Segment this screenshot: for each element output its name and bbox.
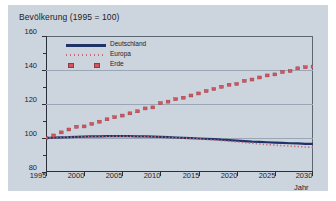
data-marker-erde [281, 71, 285, 74]
chart-figure: Bevölkerung (1995 = 100) [0, 0, 336, 201]
data-marker-erde [120, 114, 124, 117]
data-marker-erde [242, 79, 246, 82]
xlabel-2000: 2000 [59, 171, 93, 180]
legend-key-square-marker-icon [68, 63, 74, 68]
chart-title: Bevölkerung (1995 = 100) [19, 12, 119, 22]
data-marker-erde [105, 118, 109, 121]
legend-key-solid-line-icon [66, 44, 106, 47]
data-marker-erde [288, 70, 292, 73]
chart-panel: Bevölkerung (1995 = 100) [8, 5, 328, 191]
data-marker-erde [189, 94, 193, 97]
data-marker-erde [90, 122, 94, 125]
xlabel-1995: 1995 [21, 171, 55, 180]
data-marker-erde [204, 90, 208, 93]
data-marker-erde [227, 83, 231, 86]
ylabel-120: 120 [5, 95, 37, 104]
data-marker-erde [296, 67, 300, 70]
chart-legend: Deutschland Europa Erde [64, 40, 184, 70]
data-marker-erde [235, 82, 239, 85]
data-marker-erde [136, 110, 140, 113]
legend-key-square-marker-icon-2 [94, 63, 100, 68]
xlabel-2025: 2025 [250, 171, 284, 180]
data-marker-erde [82, 125, 86, 128]
data-marker-erde [151, 106, 155, 109]
data-marker-erde [166, 100, 170, 103]
data-marker-erde [128, 112, 132, 115]
x-axis-title: Jahr [294, 183, 309, 192]
data-marker-erde [311, 65, 313, 68]
xlabel-2005: 2005 [97, 171, 131, 180]
data-marker-erde [220, 85, 224, 88]
xlabel-2030: 2030 [287, 171, 321, 180]
data-marker-erde [59, 131, 63, 134]
ylabel-140: 140 [5, 61, 37, 70]
data-marker-erde [75, 125, 79, 128]
data-marker-erde [113, 116, 117, 119]
data-marker-erde [197, 92, 201, 95]
data-marker-erde [258, 76, 262, 79]
data-marker-erde [265, 74, 269, 77]
xlabel-2020: 2020 [212, 171, 246, 180]
legend-label-europa: Europa [110, 50, 131, 57]
legend-item-erde: Erde [64, 60, 184, 70]
data-marker-erde [143, 107, 147, 110]
data-marker-erde [67, 128, 71, 131]
xlabel-2010: 2010 [135, 171, 169, 180]
plot-area: Deutschland Europa Erde [46, 36, 313, 172]
data-marker-erde [250, 78, 254, 81]
data-marker-erde [159, 102, 163, 105]
legend-key-dotted-line-icon [66, 54, 106, 56]
ylabel-100: 100 [5, 129, 37, 138]
data-marker-erde [52, 134, 56, 137]
ylabel-160: 160 [5, 27, 37, 36]
legend-item-europa: Europa [64, 50, 184, 60]
xlabel-2015: 2015 [174, 171, 208, 180]
data-marker-erde [273, 73, 277, 76]
legend-label-deutschland: Deutschland [110, 40, 146, 47]
data-marker-erde [174, 98, 178, 101]
legend-label-erde: Erde [110, 60, 124, 67]
data-marker-erde [212, 88, 216, 91]
data-marker-erde [46, 137, 48, 140]
data-marker-erde [98, 120, 102, 123]
data-marker-erde [303, 66, 307, 69]
data-marker-erde [181, 96, 185, 99]
legend-item-deutschland: Deutschland [64, 40, 184, 50]
